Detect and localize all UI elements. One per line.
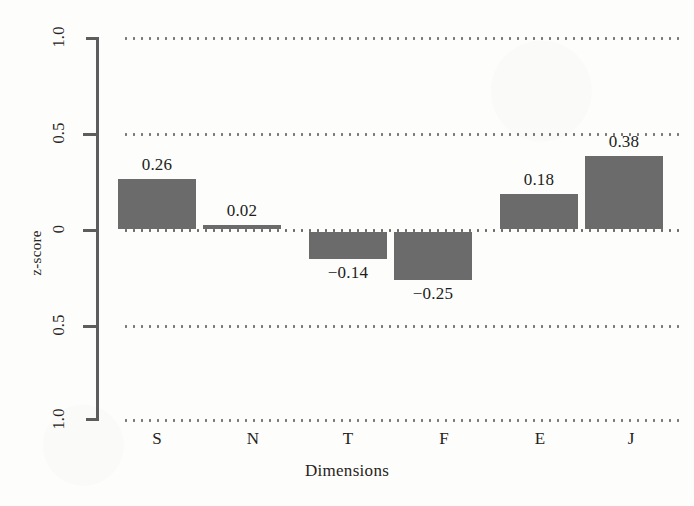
bar-value-F: −0.25 [391,284,475,304]
y-tick-label-1.0: 1.0 [44,27,74,47]
y-tick-label-neg0.5: 0.5 [44,315,74,335]
gridline-neg0.5 [122,325,682,328]
y-tick-label-0-text: 0 [49,225,69,233]
x-tick-label-E: E [500,429,580,449]
y-tick-label-1.0-text: 1.0 [49,26,69,47]
y-tick-label-neg1.0-text: 1.0 [49,408,69,429]
gridline-neg1.0 [122,419,682,422]
y-tick-label-neg1.0: 1.0 [44,409,74,429]
bar-F [394,232,472,280]
x-tick-label-S: S [117,429,197,449]
bar-value-T: −0.14 [306,263,390,283]
x-tick-label-N: N [213,429,293,449]
x-tick-label-F: F [404,429,484,449]
bar-value-J: 0.38 [584,132,664,152]
x-tick-label-T: T [308,429,388,449]
y-tick-label-0.5-text: 0.5 [49,122,69,143]
bar-T [309,232,387,259]
bar-value-N: 0.02 [202,201,282,221]
y-axis-title: z-score [28,230,45,275]
bar-J [585,156,663,229]
y-tick-label-neg0.5-text: 0.5 [49,314,69,335]
bar-chart-figure: 1.0 0.5 0 0.5 1.0 z-score 0.26 0.02 −0.1… [0,0,694,506]
y-tick-mark-0 [83,229,99,232]
y-tick-label-0: 0 [44,219,74,239]
y-tick-mark-neg0.5 [83,325,99,328]
y-axis-cap-top [86,37,99,40]
x-tick-label-J: J [591,429,671,449]
x-axis-title: Dimensions [0,461,694,481]
bar-N [203,225,281,229]
bar-S [118,179,196,229]
y-axis-cap-bottom [86,418,99,421]
y-tick-mark-0.5 [83,133,99,136]
bar-E [500,194,578,229]
bar-value-E: 0.18 [499,170,579,190]
bar-value-S: 0.26 [117,155,197,175]
y-tick-label-0.5: 0.5 [44,123,74,143]
gridline-1.0 [122,37,682,40]
